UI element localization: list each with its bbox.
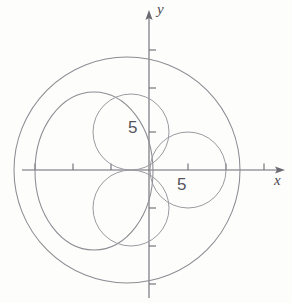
x-axis-label: x [274,173,281,188]
figure-canvas [0,0,292,303]
x-axis-tick-label-5: 5 [177,176,186,193]
large-left-circle [35,92,153,250]
y-axis-group [145,10,156,298]
y-axis-label: y [157,2,164,17]
polar-circles-figure: x y 5 5 [0,0,292,303]
lower-lobe-circle [93,170,169,246]
y-axis-tick-label-5: 5 [128,119,137,136]
